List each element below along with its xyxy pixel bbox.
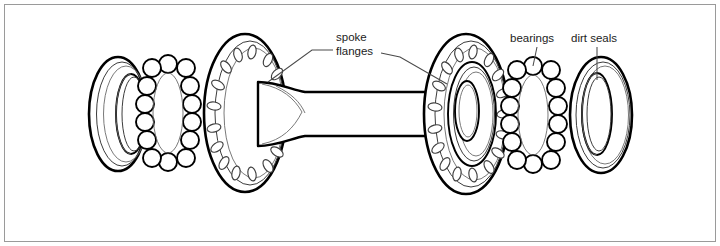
callout-bearings: bearings bbox=[510, 32, 554, 44]
callout-spoke-flanges-line1: spoke bbox=[336, 31, 367, 43]
callout-dirt-seals: dirt seals bbox=[571, 32, 617, 44]
flange-right-bearing-cup bbox=[448, 62, 496, 166]
hub-diagram-canvas: spoke flanges bearings dirt seals bbox=[0, 0, 720, 246]
callout-spoke-flanges-line2: flanges bbox=[336, 45, 373, 57]
dirt-seal-right-part bbox=[570, 57, 632, 173]
hub-diagram-figure: spoke flanges bearings dirt seals bbox=[0, 0, 720, 246]
